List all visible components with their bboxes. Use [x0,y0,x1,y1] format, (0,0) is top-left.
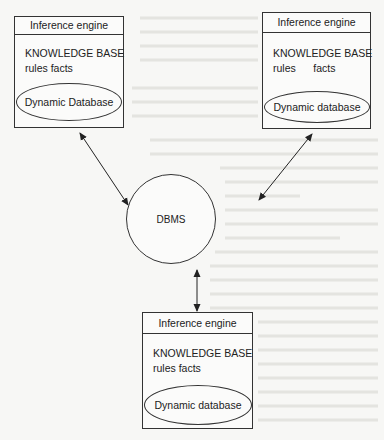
knowledge-base-items: rules facts [273,61,335,75]
inference-engine-header: Inference engine [15,17,123,35]
arrow-right-dbms [259,134,312,200]
node-bottom: Inference engine KNOWLEDGE BASE rules fa… [142,312,253,429]
inference-engine-header: Inference engine [263,13,370,33]
knowledge-base-title: KNOWLEDGE BASE [273,46,372,60]
dbms-circle: DBMS [126,174,216,264]
dynamic-database-ellipse: Dynamic Database [16,83,122,121]
arrow-left-dbms [80,133,128,205]
inference-engine-header: Inference engine [143,313,252,334]
node-right: Inference engine KNOWLEDGE BASE rules fa… [262,12,371,129]
dynamic-database-ellipse: Dynamic database [144,385,252,425]
knowledge-base-items: rules facts [25,61,73,75]
dbms-label: DBMS [157,214,186,225]
knowledge-base-title: KNOWLEDGE BASE [153,346,252,360]
node-left: Inference engine KNOWLEDGE BASE rules fa… [14,16,124,128]
knowledge-base-items: rules facts [153,361,201,375]
dynamic-database-ellipse: Dynamic database [264,91,370,123]
knowledge-base-title: KNOWLEDGE BASE [25,46,124,60]
